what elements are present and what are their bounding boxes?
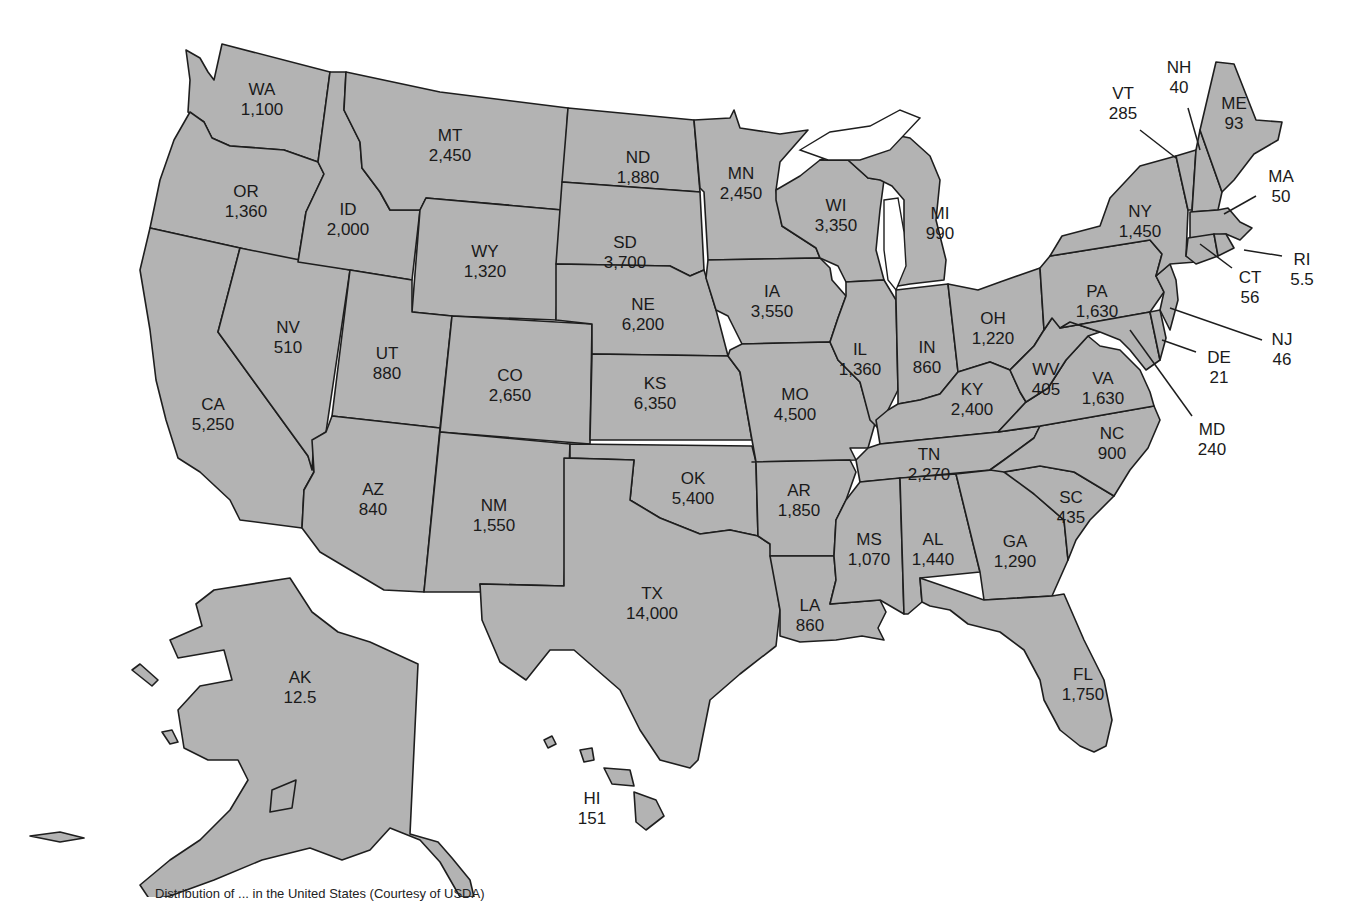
label-GA: GA1,290 [994,532,1037,572]
label-NY: NY1,450 [1119,202,1162,242]
leader-DE [1162,340,1196,352]
leader-NH [1188,108,1200,150]
leader-NJ [1170,308,1262,340]
label-NV: NV510 [274,318,302,358]
hi-island-kauai [544,736,556,748]
label-TN: TN2,270 [908,445,951,485]
label-OK: OK5,400 [672,469,715,509]
label-WI: WI3,350 [815,196,858,236]
label-UT: UT880 [373,344,401,384]
label-NM: NM1,550 [473,496,516,536]
label-WV: WV405 [1032,360,1060,400]
label-CA: CA5,250 [192,395,235,435]
label-OH: OH1,220 [972,309,1015,349]
label-FL: FL1,750 [1062,665,1105,705]
label-IN: IN860 [913,338,941,378]
label-KY: KY2,400 [951,380,994,420]
label-MA: MA50 [1268,167,1294,207]
label-MD: MD240 [1198,420,1226,460]
label-MI: MI990 [926,204,954,244]
label-NC: NC900 [1098,424,1126,464]
label-VA: VA1,630 [1082,369,1125,409]
ak-island-2 [162,730,178,744]
label-AK: AK12.5 [283,668,316,708]
label-MS: MS1,070 [848,530,891,570]
leader-RI [1244,250,1282,256]
label-IA: IA3,550 [751,282,794,322]
label-NJ: NJ46 [1272,330,1293,370]
label-MT: MT2,450 [429,126,472,166]
label-LA: LA860 [796,596,824,636]
state-AK [140,578,474,897]
label-AR: AR1,850 [778,481,821,521]
label-KS: KS6,350 [634,374,677,414]
label-AZ: AZ840 [359,480,387,520]
label-DE: DE21 [1207,348,1231,388]
state-CT [1186,234,1218,264]
state-RI [1214,234,1234,256]
leader-VT [1140,130,1176,158]
label-RI: RI5.5 [1290,250,1314,290]
label-NH: NH40 [1167,58,1192,98]
ak-island-1 [132,664,158,686]
label-TX: TX14,000 [626,584,678,624]
hi-island-oahu [580,748,594,762]
label-SD: SD3,700 [604,233,647,273]
label-IL: IL1,360 [839,340,882,380]
hi-island-maui [604,768,634,786]
label-CT: CT56 [1239,268,1262,308]
ak-island-4 [30,832,84,842]
leader-MA [1224,196,1256,214]
map-caption: Distribution of ... in the United States… [155,886,484,901]
label-VT: VT285 [1109,84,1137,124]
label-NE: NE6,200 [622,295,665,335]
label-MO: MO4,500 [774,385,817,425]
label-ME: ME93 [1221,94,1247,134]
hi-island-big [634,792,664,830]
label-WY: WY1,320 [464,242,507,282]
label-PA: PA1,630 [1076,282,1119,322]
label-SC: SC435 [1057,488,1085,528]
label-WA: WA1,100 [241,80,284,120]
label-AL: AL1,440 [912,530,955,570]
label-HI: HI151 [578,789,606,829]
label-CO: CO2,650 [489,366,532,406]
label-ID: ID2,000 [327,200,370,240]
label-ND: ND1,880 [617,148,660,188]
label-OR: OR1,360 [225,182,268,222]
label-MN: MN2,450 [720,164,763,204]
